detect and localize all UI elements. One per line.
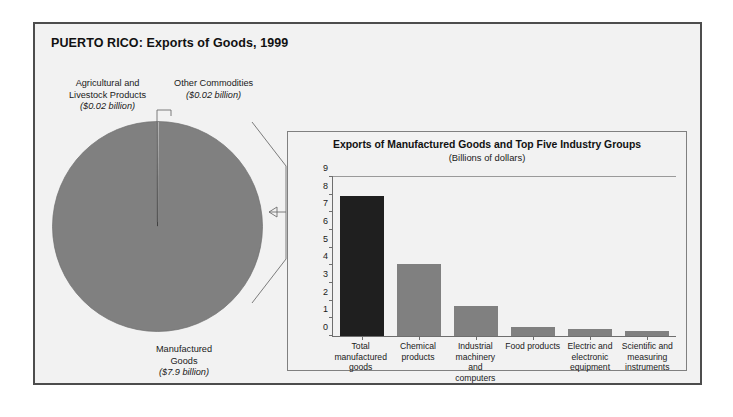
x-axis-tick-mark — [590, 336, 591, 340]
x-axis-category-label-line: manufactured — [333, 352, 388, 363]
bar-slot — [333, 177, 390, 336]
y-axis-tick-label: 5 — [323, 234, 328, 243]
x-axis-category-label-line: goods — [333, 362, 388, 373]
x-axis-category-label-line: Industrial — [448, 341, 503, 352]
x-axis-category-label-line: computers — [448, 373, 503, 384]
x-axis-category-label-line: electronic — [562, 352, 617, 363]
x-axis-category-label-line: products — [390, 352, 445, 363]
y-axis-tick-label: 6 — [323, 217, 328, 226]
y-axis-tick-label: 9 — [323, 164, 328, 173]
x-axis-category-label-line: measuring — [620, 352, 675, 363]
x-axis-category-label-line: machinery and — [448, 352, 503, 373]
x-axis-category-label: Food products — [504, 341, 561, 383]
pie-label-manufactured-goods: Manufactured Goods ($7.9 billion) — [119, 344, 249, 379]
bar-slot — [447, 177, 504, 336]
pie-label-agricultural-line2: Livestock Products — [69, 90, 146, 102]
bar — [568, 329, 612, 336]
bar-chart-panel: Exports of Manufactured Goods and Top Fi… — [287, 131, 687, 371]
x-axis-category-label: Scientific andmeasuringinstruments — [619, 341, 676, 383]
bar — [454, 306, 498, 336]
x-axis-category-label: Chemicalproducts — [389, 341, 446, 383]
bar — [340, 196, 384, 336]
pie-label-manufactured-amount: ($7.9 billion) — [119, 367, 249, 379]
pie-label-agricultural-amount: ($0.02 billion) — [69, 101, 146, 113]
x-axis-category-label-line: instruments — [620, 362, 675, 373]
bar-slot — [562, 177, 619, 336]
x-axis-category-label-line: Chemical — [390, 341, 445, 352]
x-axis-category-label-line: Total — [333, 341, 388, 352]
x-axis-tick-mark — [419, 336, 420, 340]
x-axis-tick-mark — [533, 336, 534, 340]
y-axis-tick-label: 1 — [323, 305, 328, 314]
pie-chart-area: Agricultural and Livestock Products ($0.… — [35, 24, 305, 387]
bar — [511, 327, 555, 336]
bar-series — [333, 177, 676, 336]
x-axis-labels: TotalmanufacturedgoodsChemicalproductsIn… — [332, 341, 676, 383]
pie-label-other-commodities: Other Commodities ($0.02 billion) — [174, 78, 253, 101]
x-axis-tick-mark — [647, 336, 648, 340]
pie-chart — [50, 119, 265, 334]
x-axis-category-label: Totalmanufacturedgoods — [332, 341, 389, 383]
figure-container: PUERTO RICO: Exports of Goods, 1999 Agri… — [33, 22, 702, 385]
y-axis-tick-label: 3 — [323, 270, 328, 279]
pie-label-other-line1: Other Commodities — [174, 78, 253, 90]
bar-slot — [505, 177, 562, 336]
y-axis-tick-label: 4 — [323, 252, 328, 261]
pie-label-other-amount: ($0.02 billion) — [174, 90, 253, 102]
y-axis-tick-label: 7 — [323, 199, 328, 208]
pie-slice-divider — [157, 122, 158, 227]
bar-slot — [390, 177, 447, 336]
x-axis-tick-mark — [362, 336, 363, 340]
pie-label-manufactured-line2: Goods — [119, 356, 249, 368]
bar-plot-area: 0123456789 — [332, 177, 676, 337]
y-axis-tick-label: 2 — [323, 287, 328, 296]
y-axis-tick-label: 0 — [323, 323, 328, 332]
bar — [397, 264, 441, 336]
pie-label-agricultural-line1: Agricultural and — [69, 78, 146, 90]
x-axis-category-label-line: Electric and — [562, 341, 617, 352]
bar-plot-wrapper: 0123456789 TotalmanufacturedgoodsChemica… — [288, 132, 686, 370]
x-axis-category-label-line: Food products — [505, 341, 560, 352]
x-axis-category-label: Electric andelectronicequipment — [561, 341, 618, 383]
pie-label-agricultural: Agricultural and Livestock Products ($0.… — [69, 78, 146, 113]
x-axis-category-label: Industrialmachinery andcomputers — [447, 341, 504, 383]
pie-label-manufactured-line1: Manufactured — [119, 344, 249, 356]
x-axis-category-label-line: Scientific and — [620, 341, 675, 352]
x-axis-tick-mark — [476, 336, 477, 340]
bar-slot — [619, 177, 676, 336]
y-axis-tick-label: 8 — [323, 181, 328, 190]
x-axis-category-label-line: equipment — [562, 362, 617, 373]
